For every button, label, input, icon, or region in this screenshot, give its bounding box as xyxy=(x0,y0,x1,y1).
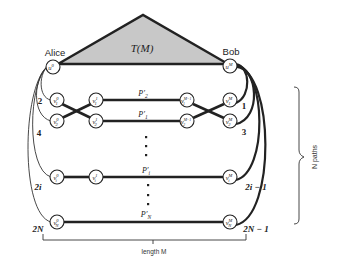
edge-number-right-1: 1 xyxy=(242,101,247,111)
npaths-label: N paths xyxy=(311,144,319,169)
tree-label: T(M) xyxy=(131,42,154,55)
length-bracket xyxy=(43,234,246,244)
node-vi-M: vMi xyxy=(223,170,237,184)
edge-number-left-1: 2 xyxy=(38,96,43,106)
node-v1-1: v11 xyxy=(89,93,103,107)
node-v2-0: v02 xyxy=(50,114,64,128)
path-label-p1: P′1 xyxy=(137,110,148,120)
node-uM: uM xyxy=(223,59,237,73)
node-vN-M: vMN xyxy=(223,215,237,229)
npaths-brace xyxy=(294,87,304,224)
alice-label: Alice xyxy=(45,47,66,58)
edge-number-right-2: 3 xyxy=(242,127,247,137)
edge-number-right-i: 2i − 1 xyxy=(244,182,266,192)
edge-number-left-2: 4 xyxy=(37,128,42,138)
ellipsis-dots-lower xyxy=(147,184,149,205)
ellipsis-dots-upper xyxy=(145,136,147,156)
path-construction-diagram: T(M) Alice Bob P′2 P′1 P′i xyxy=(0,0,343,267)
bob-label: Bob xyxy=(223,46,240,57)
node-v1-0: v01 xyxy=(50,93,64,107)
tree-triangle: T(M) xyxy=(58,15,228,64)
alice-edges xyxy=(28,64,51,222)
node-v2-M: vM2 xyxy=(223,114,237,128)
node-u0: u0 xyxy=(46,60,60,74)
edge-number-left-n: 2N xyxy=(32,224,45,234)
path-label-pn: P′N xyxy=(140,210,152,220)
path-label-pi: P′i xyxy=(141,166,151,176)
bob-edges xyxy=(236,64,265,225)
length-label: length M xyxy=(142,248,167,256)
node-vi-0: v0i xyxy=(50,170,64,184)
node-v2-Mminus1: vM−12 xyxy=(180,114,194,128)
edge-number-right-n: 2N − 1 xyxy=(242,224,268,234)
path-label-p2: P′2 xyxy=(137,89,148,99)
node-v2-1: v12 xyxy=(89,114,103,128)
node-v1-M: vM1 xyxy=(223,93,237,107)
edge-number-left-i: 2i xyxy=(33,182,42,192)
node-v1-Mminus1: vM−11 xyxy=(180,93,194,107)
node-vN-0: v0N xyxy=(50,215,64,229)
node-vi-1: v1i xyxy=(89,170,103,184)
